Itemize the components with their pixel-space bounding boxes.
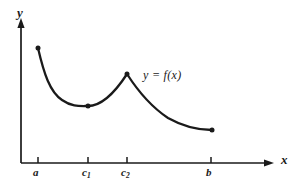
x-axis-label: x (281, 152, 288, 168)
function-curve (38, 48, 212, 130)
tick-label-b: b (206, 166, 212, 178)
curve-equation-label: y = f(x) (143, 68, 181, 83)
point-right-endpoint (210, 128, 215, 133)
graph-canvas (0, 0, 298, 190)
tick-label-c2: c2 (121, 166, 130, 178)
point-left-endpoint (36, 46, 41, 51)
y-axis (17, 18, 24, 163)
tick-label-c1: c1 (82, 166, 91, 178)
point-cusp-maximum (125, 72, 130, 77)
curve-point-markers (36, 46, 215, 133)
function-graph-figure: y x y = f(x) a c1 c2 b (0, 0, 298, 190)
tick-label-b-text: b (206, 166, 212, 178)
x-axis-ticks (38, 157, 211, 163)
x-axis (21, 159, 274, 166)
point-local-minimum (86, 104, 91, 109)
y-axis-label: y (17, 5, 23, 21)
tick-label-a-text: a (33, 166, 39, 178)
tick-label-a: a (33, 166, 39, 178)
tick-label-c1-sub: 1 (87, 171, 91, 180)
tick-label-c2-sub: 2 (126, 171, 130, 180)
